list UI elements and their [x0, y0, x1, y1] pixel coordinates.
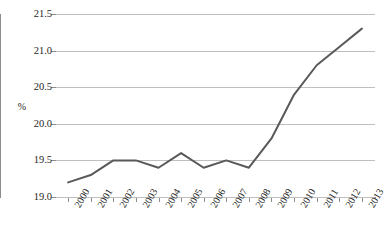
- x-axis-tickmark: [68, 198, 69, 202]
- x-axis-tickmark: [136, 198, 137, 202]
- x-axis-tickmark: [113, 198, 114, 202]
- y-axis-tick-label: 20.5: [16, 81, 52, 92]
- x-axis-tickmark: [249, 198, 250, 202]
- x-axis-tickmark: [271, 198, 272, 202]
- x-axis-tickmark: [91, 198, 92, 202]
- y-axis-tick-label: 19.5: [16, 154, 52, 165]
- line-chart: % 19.019.520.020.521.021.520002001200220…: [0, 0, 392, 242]
- gridline: [55, 160, 375, 161]
- gridline: [55, 14, 375, 15]
- y-axis-unit-label: %: [4, 101, 26, 113]
- x-axis-tickmark: [362, 198, 363, 202]
- x-axis-tickmark: [317, 198, 318, 202]
- x-axis-tickmark: [226, 198, 227, 202]
- y-axis-line: [0, 14, 1, 198]
- x-axis-tickmark: [204, 198, 205, 202]
- x-axis-tickmark: [159, 198, 160, 202]
- x-axis-tickmark: [339, 198, 340, 202]
- gridline: [55, 51, 375, 52]
- gridline: [55, 87, 375, 88]
- y-axis-tick-label: 19.0: [16, 191, 52, 202]
- gridline: [55, 124, 375, 125]
- x-axis-tickmark: [181, 198, 182, 202]
- plot-area: [55, 14, 375, 197]
- y-axis-tick-label: 20.0: [16, 118, 52, 129]
- x-axis-tickmark: [294, 198, 295, 202]
- y-axis-tick-label: 21.5: [16, 8, 52, 19]
- y-axis-tick-label: 21.0: [16, 45, 52, 56]
